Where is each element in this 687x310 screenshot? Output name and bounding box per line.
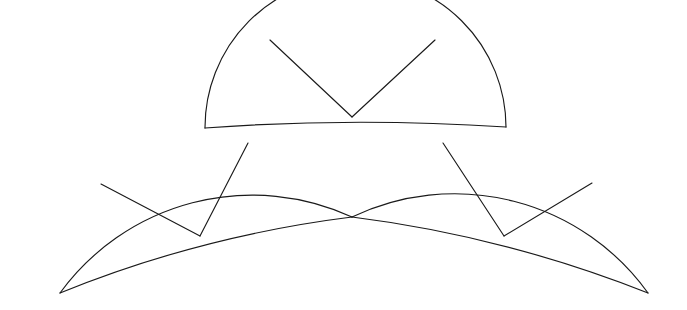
right-fan-inner-arc [352, 217, 648, 293]
top-fan-radial-left [270, 40, 352, 117]
left-fan-outer-arc [60, 195, 352, 293]
figure-root [0, 0, 687, 310]
right-fan [352, 143, 648, 293]
left-fan-radial-inner [200, 143, 248, 236]
top-fan [205, 0, 506, 128]
sector-diagram [0, 0, 687, 310]
top-fan-inner-arc [205, 122, 506, 128]
right-fan-outer-arc [352, 194, 648, 293]
top-fan-outer-arc [205, 0, 506, 128]
right-fan-radial-inner [443, 143, 504, 236]
left-fan [60, 143, 352, 293]
top-fan-radial-right [352, 40, 435, 117]
left-fan-inner-arc [60, 217, 352, 293]
left-fan-radial-outer [101, 184, 200, 236]
